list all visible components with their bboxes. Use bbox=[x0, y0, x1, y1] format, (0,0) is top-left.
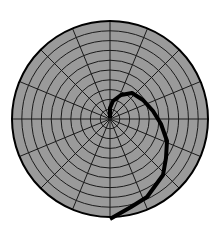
polar-plot bbox=[0, 0, 216, 231]
